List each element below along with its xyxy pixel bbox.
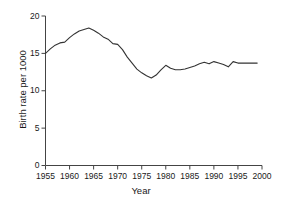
x-axis-tick-label: 1990 — [201, 172, 227, 181]
x-axis-tick-label: 1955 — [33, 172, 59, 181]
x-axis-tick-label: 1965 — [81, 172, 107, 181]
y-axis-tick-label: 0 — [24, 161, 40, 170]
y-axis-ticks — [42, 16, 46, 166]
x-axis-tick-label: 1970 — [105, 172, 131, 181]
x-axis-tick-label: 1980 — [153, 172, 179, 181]
x-axis-tick-label: 1985 — [177, 172, 203, 181]
x-axis-tick-label: 2000 — [249, 172, 275, 181]
x-axis-ticks — [46, 166, 263, 170]
birth-rate-line-chart: 05101520 1955196019651970197519801985199… — [0, 0, 282, 203]
x-axis-tick-label: 1960 — [57, 172, 83, 181]
series-line — [46, 28, 258, 78]
y-axis-title: Birth rate per 1000 — [17, 20, 28, 160]
axes — [42, 16, 263, 170]
x-axis-tick-label: 1975 — [129, 172, 155, 181]
x-axis-tick-label: 1995 — [225, 172, 251, 181]
data-series-group — [46, 28, 258, 78]
x-axis-title: Year — [0, 185, 282, 196]
